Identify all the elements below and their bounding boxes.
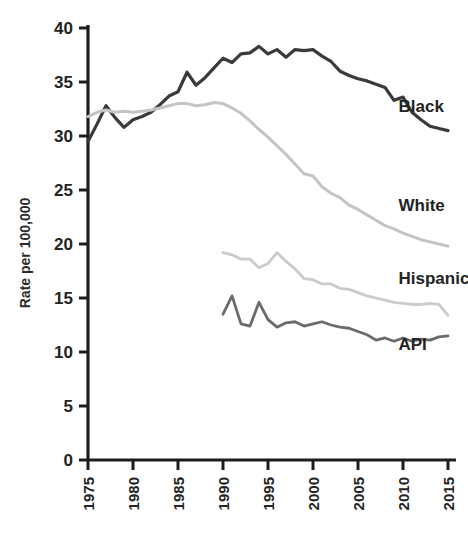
series-label-api: API <box>399 335 427 354</box>
y-tick-label: 10 <box>54 343 73 362</box>
series-label-white: White <box>399 196 445 215</box>
x-tick-label: 1980 <box>125 477 142 510</box>
y-tick-label: 35 <box>54 73 73 92</box>
x-tick-label: 1985 <box>170 477 187 510</box>
y-tick-label: 40 <box>54 19 73 38</box>
chart-container: 0510152025303540197519801985199019952000… <box>0 0 468 535</box>
y-axis-title: Rate per 100,000 <box>17 198 33 309</box>
series-line-black <box>88 46 448 141</box>
x-tick-label: 2005 <box>350 477 367 510</box>
y-tick-label: 5 <box>64 397 73 416</box>
x-tick-label: 2015 <box>440 477 457 510</box>
x-tick-label: 1995 <box>260 477 277 510</box>
x-tick-label: 1975 <box>80 477 97 510</box>
series-label-hispanic: Hispanic <box>399 269 468 288</box>
x-tick-label: 2000 <box>305 477 322 510</box>
y-tick-label: 25 <box>54 181 73 200</box>
figure-caption-partial <box>0 525 468 535</box>
y-tick-label: 15 <box>54 289 73 308</box>
line-chart: 0510152025303540197519801985199019952000… <box>0 0 468 535</box>
x-tick-label: 1990 <box>215 477 232 510</box>
y-tick-label: 0 <box>64 451 73 470</box>
y-tick-label: 30 <box>54 127 73 146</box>
x-tick-label: 2010 <box>395 477 412 510</box>
y-tick-label: 20 <box>54 235 73 254</box>
series-label-black: Black <box>399 97 445 116</box>
series-line-white <box>88 103 448 247</box>
